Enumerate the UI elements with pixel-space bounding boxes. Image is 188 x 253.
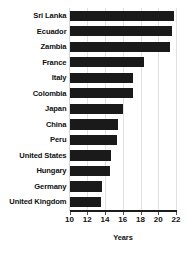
bar-row: Colombia — [0, 86, 188, 102]
category-label: Zambia — [41, 39, 67, 55]
bar-row: Italy — [0, 70, 188, 86]
bar-row: Sri Lanka — [0, 8, 188, 24]
bar — [70, 197, 101, 207]
bar-row: China — [0, 117, 188, 133]
bar-row: France — [0, 55, 188, 71]
category-label: France — [42, 55, 66, 71]
x-tick-label: 20 — [154, 215, 163, 224]
x-axis-ticks: 10121416182022 — [0, 212, 188, 225]
bar-chart: Sri LankaEcuadorZambiaFranceItalyColombi… — [0, 0, 188, 253]
bar-row: Japan — [0, 101, 188, 117]
category-label: Germany — [34, 179, 66, 195]
bar-row: Ecuador — [0, 24, 188, 40]
x-tick-label: 16 — [118, 215, 127, 224]
x-tick-label: 10 — [65, 215, 74, 224]
bar — [70, 57, 145, 67]
bar — [70, 88, 133, 98]
bar — [70, 26, 172, 36]
bar — [70, 135, 117, 145]
bar-row: Hungary — [0, 163, 188, 179]
bar-row: Germany — [0, 179, 188, 195]
x-tick-label: 12 — [83, 215, 92, 224]
category-label: United States — [19, 148, 66, 164]
category-label: Japan — [45, 101, 66, 117]
bar-row: Peru — [0, 132, 188, 148]
category-label: Peru — [50, 132, 66, 148]
category-label: Italy — [52, 70, 67, 86]
x-tick-label: 18 — [136, 215, 145, 224]
bar — [70, 42, 170, 52]
bar — [70, 73, 134, 83]
bar — [70, 119, 119, 129]
bar-row: United Kingdom — [0, 194, 188, 210]
category-label: China — [46, 117, 67, 133]
bar — [70, 11, 175, 21]
category-label: Hungary — [36, 163, 66, 179]
bar — [70, 150, 112, 160]
bar-rows: Sri LankaEcuadorZambiaFranceItalyColombi… — [0, 8, 188, 210]
bar — [70, 166, 111, 176]
x-tick-label: 22 — [172, 215, 181, 224]
bar — [70, 104, 123, 114]
bar-row: Zambia — [0, 39, 188, 55]
category-label: Ecuador — [37, 24, 67, 40]
category-label: United Kingdom — [9, 194, 66, 210]
x-axis-title: Years — [70, 233, 177, 242]
category-label: Colombia — [33, 86, 67, 102]
x-tick-label: 14 — [101, 215, 110, 224]
bar — [70, 181, 103, 191]
category-label: Sri Lanka — [33, 8, 66, 24]
bar-row: United States — [0, 148, 188, 164]
